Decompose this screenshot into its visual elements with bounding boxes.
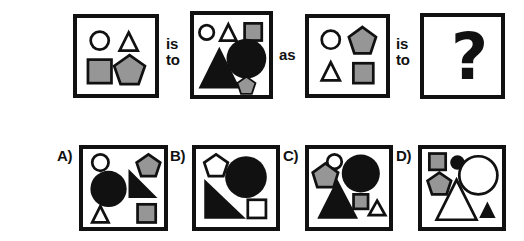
square-gray-medium xyxy=(88,60,112,84)
circle-outline-large xyxy=(459,156,497,194)
circle-black-large xyxy=(227,39,267,79)
option-d-shapes xyxy=(422,149,502,227)
question-mark-glyph: ? xyxy=(451,25,488,89)
option-d-panel[interactable] xyxy=(418,145,506,231)
prompt-panel-3 xyxy=(305,14,390,98)
panel-2-shapes xyxy=(194,15,269,95)
circle-outline-small xyxy=(91,32,109,50)
square-gray-small xyxy=(138,204,156,222)
circle-outline-small xyxy=(199,25,213,39)
circle-black-large xyxy=(90,171,126,207)
triangle-outline-small xyxy=(369,201,385,216)
connector-is-to-2: is to xyxy=(396,36,410,68)
option-a-shapes xyxy=(83,149,164,227)
answer-placeholder-panel: ? xyxy=(420,13,505,99)
triangle-black-small xyxy=(479,202,495,218)
connector-line-as: as xyxy=(279,47,295,63)
puzzle-stage: is to as is to ? A) xyxy=(0,0,524,241)
triangle-outline-small xyxy=(92,206,108,222)
panel-3-shapes xyxy=(309,18,386,94)
circle-outline-small xyxy=(322,31,340,49)
connector-line-2: to xyxy=(396,52,410,68)
square-gray-medium xyxy=(353,63,373,83)
pentagon-gray-small xyxy=(237,77,255,94)
pentagon-gray-medium xyxy=(428,173,452,195)
prompt-panel-1 xyxy=(73,14,159,98)
circle-outline-small xyxy=(92,154,108,170)
option-c-panel[interactable] xyxy=(305,145,393,231)
option-b-label: B) xyxy=(170,147,185,164)
triangle-outline-small xyxy=(322,62,340,80)
option-c-shapes xyxy=(309,149,389,227)
square-gray-small xyxy=(429,154,445,170)
option-b-panel[interactable] xyxy=(192,145,280,231)
connector-line-1: is xyxy=(166,36,180,52)
pentagon-gray-medium xyxy=(349,27,376,53)
option-c-label: C) xyxy=(283,147,298,164)
connector-as: as xyxy=(279,47,295,63)
option-b-shapes xyxy=(196,149,276,227)
square-gray-small xyxy=(354,194,369,209)
connector-line-1: is xyxy=(396,36,410,52)
pentagon-outline-small xyxy=(204,154,228,176)
pentagon-gray-medium xyxy=(114,55,145,84)
pentagon-gray-small xyxy=(137,154,161,176)
connector-line-2: to xyxy=(166,52,180,68)
prompt-panel-2 xyxy=(190,11,273,99)
square-gray-small xyxy=(245,23,262,40)
panel-1-shapes xyxy=(77,18,155,94)
option-d-label: D) xyxy=(396,147,411,164)
circle-black-large xyxy=(342,154,380,192)
connector-is-to-1: is to xyxy=(166,36,180,68)
option-a-panel[interactable] xyxy=(79,145,168,231)
circle-black-large xyxy=(225,156,267,198)
triangle-outline-small xyxy=(220,24,236,40)
square-outline-small xyxy=(248,200,266,218)
triangle-outline-small xyxy=(120,32,138,50)
option-a-label: A) xyxy=(57,147,72,164)
